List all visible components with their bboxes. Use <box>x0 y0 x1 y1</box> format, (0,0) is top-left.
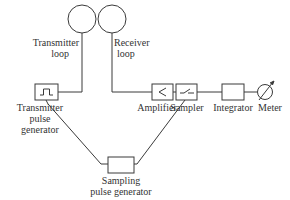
block-diagram <box>0 0 290 200</box>
transmitter-pulse-generator-box <box>35 84 58 100</box>
sampling-pulse-generator-box <box>108 157 134 173</box>
receiver-loop-label: Receiver loop <box>114 37 154 59</box>
integrator-box <box>222 84 244 100</box>
amplifier-triangle-icon <box>159 88 166 96</box>
tpg-label-line3: generator <box>10 124 70 135</box>
meter-label: Meter <box>255 102 285 113</box>
tpg-label-line1: Transmitter <box>10 102 70 113</box>
transmitter-loop-circle <box>68 5 96 33</box>
transmitter-loop-label-line2: loop <box>27 48 79 59</box>
transmitter-loop-label: Transmitter loop <box>27 37 79 59</box>
spg-label-line2: pulse generator <box>84 186 158 197</box>
square-pulse-icon <box>40 89 53 95</box>
transmitter-pulse-generator-label: Transmitter pulse generator <box>10 102 70 135</box>
amplifier-box <box>152 84 173 100</box>
spg-label-line1: Sampling <box>84 175 158 186</box>
receiver-loop-label-line1: Receiver <box>114 37 154 48</box>
sampler-box <box>176 84 197 100</box>
sampling-pulse-generator-label: Sampling pulse generator <box>84 175 158 197</box>
sampler-label: Sampler <box>170 102 204 113</box>
switch-icon <box>180 89 194 93</box>
receiver-loop-label-line2: loop <box>114 48 154 59</box>
receiver-loop-circle <box>98 5 126 33</box>
tpg-label-line2: pulse <box>10 113 70 124</box>
integrator-label: Integrator <box>210 102 256 113</box>
transmitter-loop-label-line1: Transmitter <box>27 37 79 48</box>
